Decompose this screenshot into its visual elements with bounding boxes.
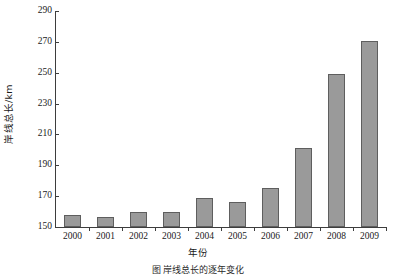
bar-2005: [229, 202, 246, 227]
y-tick-label: 230: [26, 99, 52, 109]
x-axis-title: 年份: [0, 245, 396, 259]
x-tick-label-2004: 2004: [188, 232, 222, 242]
y-tick-label: 170: [26, 191, 52, 201]
x-tick-mark: [89, 227, 90, 231]
x-tick-label-2007: 2007: [287, 232, 321, 242]
x-tick-label-2005: 2005: [221, 232, 255, 242]
x-tick-label-2006: 2006: [254, 232, 288, 242]
y-tick-label: 270: [26, 37, 52, 47]
x-tick-label-2009: 2009: [353, 232, 387, 242]
x-tick-mark: [188, 227, 189, 231]
figure-caption: 图 岸线总长的逐年变化: [0, 263, 396, 276]
bar-2008: [328, 74, 345, 227]
x-tick-mark: [287, 227, 288, 231]
x-tick-mark: [221, 227, 222, 231]
x-tick-mark: [386, 227, 387, 231]
y-tick-label: 150: [26, 222, 52, 232]
y-tick-label: 190: [26, 160, 52, 170]
x-tick-label-2001: 2001: [89, 232, 123, 242]
y-axis-title: 岸线总长/km: [0, 0, 16, 228]
bar-2003: [163, 212, 180, 227]
bar-2002: [130, 212, 147, 227]
y-tick-label: 250: [26, 68, 52, 78]
bar-2001: [97, 217, 114, 227]
plot-area: [56, 11, 386, 227]
bar-2007: [295, 148, 312, 227]
x-tick-mark: [353, 227, 354, 231]
x-tick-label-2002: 2002: [122, 232, 156, 242]
bar-2006: [262, 188, 279, 227]
x-tick-mark: [320, 227, 321, 231]
y-axis-title-text: 岸线总长/km: [1, 84, 15, 143]
x-tick-mark: [122, 227, 123, 231]
y-tick-mark: [55, 227, 59, 228]
x-tick-label-2003: 2003: [155, 232, 189, 242]
y-tick-label: 290: [26, 6, 52, 16]
x-tick-mark: [254, 227, 255, 231]
x-tick-label-2000: 2000: [56, 232, 90, 242]
x-tick-label-2008: 2008: [320, 232, 354, 242]
bar-2009: [361, 41, 378, 227]
x-tick-mark: [155, 227, 156, 231]
bar-2004: [196, 198, 213, 227]
y-axis-tick-labels: 150170190210230250270290: [22, 0, 52, 274]
bar-2000: [64, 215, 81, 227]
y-tick-label: 210: [26, 129, 52, 139]
